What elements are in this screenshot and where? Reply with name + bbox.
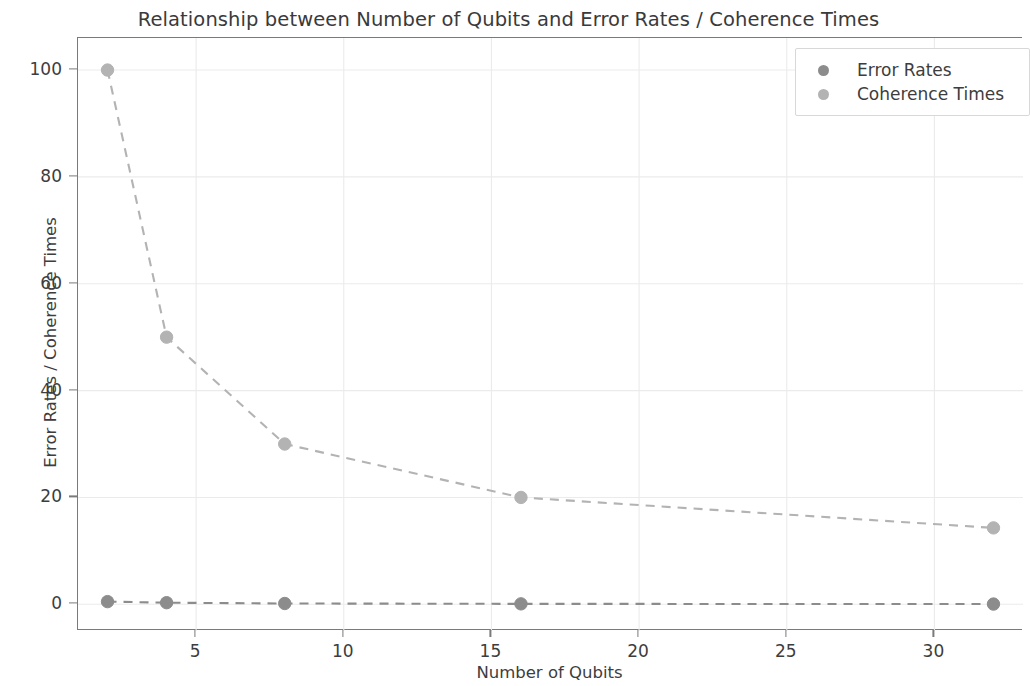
plot-area: [77, 37, 1022, 630]
y-tick-label: 0: [0, 593, 62, 613]
x-tick-label: 5: [165, 641, 225, 661]
y-tick-mark: [69, 496, 77, 497]
y-tick-mark: [69, 68, 77, 69]
x-tick-mark: [933, 630, 934, 637]
legend-item-coherence-times[interactable]: Coherence Times: [806, 82, 1015, 106]
x-tick-mark: [638, 630, 639, 637]
legend-item-error-rates[interactable]: Error Rates: [806, 58, 1015, 82]
x-tick-label: 15: [460, 641, 520, 661]
legend-label: Error Rates: [857, 60, 952, 80]
y-tick-mark: [69, 389, 77, 390]
x-tick-mark: [195, 630, 196, 637]
y-axis-label: Error Rates / Coherence Times: [41, 133, 60, 553]
x-tick-label: 20: [608, 641, 668, 661]
x-tick-label: 10: [313, 641, 373, 661]
x-tick-mark: [490, 630, 491, 637]
chart-title: Relationship between Number of Qubits an…: [0, 8, 1017, 31]
y-tick-mark: [69, 603, 77, 604]
x-tick-label: 30: [903, 641, 963, 661]
y-tick-mark: [69, 282, 77, 283]
x-tick-label: 25: [756, 641, 816, 661]
legend-label: Coherence Times: [857, 84, 1004, 104]
plot-canvas: [78, 38, 1023, 631]
chart-legend: Error RatesCoherence Times: [795, 48, 1030, 116]
y-tick-mark: [69, 175, 77, 176]
x-tick-mark: [342, 630, 343, 637]
y-tick-label: 100: [0, 59, 62, 79]
x-axis-label: Number of Qubits: [77, 663, 1022, 682]
x-tick-mark: [785, 630, 786, 637]
legend-marker-icon: [818, 65, 829, 76]
legend-marker-icon: [818, 89, 829, 100]
